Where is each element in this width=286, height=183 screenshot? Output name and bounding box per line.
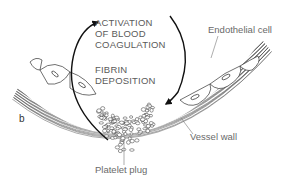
label-platelet-plug: Platelet plug [95,164,147,175]
process-line-5: DEPOSITION [95,75,156,86]
platelet [136,122,140,125]
platelet [102,126,107,129]
label-vessel-wall: Vessel wall [190,131,237,142]
platelet [110,127,114,130]
platelet [150,114,153,117]
platelet [114,137,117,139]
platelet [100,116,104,119]
platelet [118,143,122,146]
platelet [121,137,125,140]
platelet [108,118,112,121]
platelet [126,141,130,145]
platelet [123,117,127,119]
platelet [130,149,135,152]
platelet [138,131,142,133]
platelet [135,139,139,142]
platelet [116,127,119,130]
platelet [115,146,119,149]
platelet [113,120,117,123]
platelet [112,130,116,134]
platelet [103,129,107,132]
platelet [143,128,147,130]
diagram-canvas: ACTIVATION OF BLOOD COAGULATION FIBRIN D… [0,0,286,183]
process-text-activation: ACTIVATION OF BLOOD COAGULATION [95,17,166,50]
platelet [142,114,146,117]
platelet [150,125,153,128]
platelet [111,114,114,117]
label-endothelial-cell: Endothelial cell [208,24,272,35]
platelet [100,114,104,116]
platelet [130,139,134,143]
platelet [115,116,119,119]
panel-label: b [19,113,25,124]
platelet [148,105,152,108]
platelet [132,121,135,124]
process-text-fibrin: FIBRIN DEPOSITION [95,64,156,86]
platelet [129,128,133,132]
platelet [117,133,121,137]
platelet [141,118,145,121]
process-line-3: COAGULATION [95,39,166,50]
process-line-4: FIBRIN [95,64,156,75]
platelet [130,116,133,119]
platelet [118,149,122,152]
platelet [150,108,153,112]
platelet [120,121,124,124]
platelet [135,118,138,121]
platelet [124,133,127,136]
platelet [99,122,103,124]
platelet [149,122,153,125]
process-line-1: ACTIVATION [95,17,166,28]
platelet [97,109,101,113]
process-line-2: OF BLOOD [95,28,166,39]
deposition-arrow [166,16,185,104]
platelet [141,108,145,112]
platelet [125,122,130,125]
platelet [137,128,141,131]
platelet [130,133,133,135]
platelet [105,114,108,117]
platelet [146,124,150,127]
endothelial-cell-leader [211,36,218,58]
